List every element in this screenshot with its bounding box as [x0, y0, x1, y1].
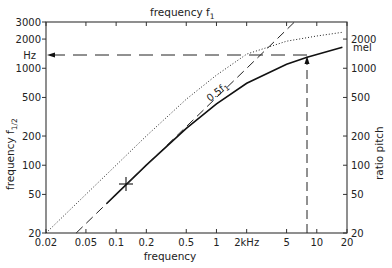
half-f1-curve-label: 0.5f1 [204, 80, 231, 105]
vertical-arrow [305, 56, 310, 233]
y-tick-label: 50 [28, 189, 41, 200]
x-tick-label: 2kHz [234, 237, 259, 248]
x-tick-label: 10 [310, 237, 323, 248]
y-tick-label: 3000 [16, 17, 41, 28]
x-axis-ticks: 0.020.050.10.20.512kHz51020 [35, 22, 354, 248]
x-tick-label: 1 [213, 237, 219, 248]
y-tick-label: 200 [22, 131, 41, 142]
x-axis-label: frequency [144, 250, 197, 262]
x-tick-label: 0.5 [178, 237, 194, 248]
right-y-axis-ticks: 205010020050010002000 [343, 34, 376, 239]
right-y-tick-label: 200 [351, 131, 370, 142]
chart-canvas: 0.020.050.10.20.512kHz51020 205010020050… [0, 0, 392, 268]
hz-unit-label: Hz [23, 50, 36, 61]
half-f1-line-dashed [76, 22, 294, 233]
y-tick-label: 2000 [16, 34, 41, 45]
mel-curve-dotted [46, 32, 342, 233]
right-y-tick-label: 100 [351, 160, 370, 171]
x-tick-label: 0.1 [108, 237, 124, 248]
x-tick-label: 5 [283, 237, 289, 248]
right-y-tick-label: 50 [351, 189, 364, 200]
horizontal-arrow [47, 53, 307, 58]
right-y-tick-label: 20 [351, 228, 364, 239]
x-tick-label: 0.05 [75, 237, 97, 248]
y-tick-label: 100 [22, 160, 41, 171]
right-y-tick-label: 1000 [351, 63, 376, 74]
left-y-axis-label: frequency f1/2 [4, 118, 19, 190]
x-tick-label: 0.2 [138, 237, 154, 248]
mel-unit-label: mel [353, 42, 372, 53]
plot-frame [46, 22, 347, 233]
y-tick-label: 20 [28, 228, 41, 239]
top-axis-label: frequency f1 [150, 6, 215, 21]
right-y-axis-label: ratio pitch [373, 126, 385, 180]
y-tick-label: 500 [22, 92, 41, 103]
y-tick-label: 1000 [16, 63, 41, 74]
right-y-tick-label: 500 [351, 92, 370, 103]
